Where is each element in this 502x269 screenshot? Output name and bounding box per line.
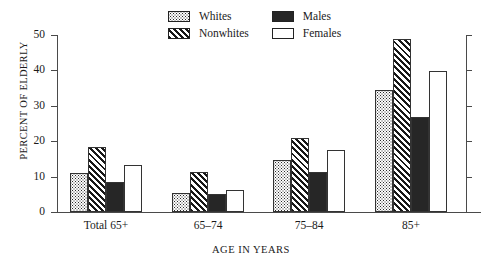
bar-nonwhites-2 bbox=[291, 138, 309, 212]
y-tick-mark bbox=[51, 177, 57, 178]
legend-label-males: Males bbox=[303, 11, 355, 23]
bar-nonwhites-1 bbox=[190, 172, 208, 212]
bar-females-3 bbox=[429, 71, 447, 212]
bar-group bbox=[375, 35, 447, 212]
bar-group bbox=[273, 35, 345, 212]
x-category-label: 85+ bbox=[351, 220, 471, 232]
bar-whites-2 bbox=[273, 160, 291, 212]
x-axis-line bbox=[57, 212, 481, 213]
legend-swatch-males bbox=[272, 11, 294, 22]
y-tick-mark bbox=[51, 212, 57, 213]
bar-whites-3 bbox=[375, 90, 393, 212]
bar-whites-1 bbox=[172, 193, 190, 212]
bar-males-3 bbox=[411, 117, 429, 212]
y-tick-mark bbox=[51, 106, 57, 107]
bar-females-0 bbox=[124, 165, 142, 212]
y-tick-mark bbox=[51, 35, 57, 36]
y-axis-line bbox=[57, 35, 58, 213]
bar-females-1 bbox=[226, 190, 244, 212]
y-tick-mark-right bbox=[466, 177, 472, 178]
y-tick-mark-right bbox=[466, 106, 472, 107]
bar-females-2 bbox=[327, 150, 345, 212]
right-axis-line bbox=[466, 35, 467, 213]
bar-males-0 bbox=[106, 182, 124, 212]
bar-chart-figure: Whites Males Nonwhites Females 010203040… bbox=[0, 0, 502, 269]
y-tick-mark bbox=[51, 70, 57, 71]
y-tick-mark bbox=[51, 141, 57, 142]
bar-males-1 bbox=[208, 194, 226, 212]
y-tick-mark-right bbox=[466, 70, 472, 71]
x-axis-label: AGE IN YEARS bbox=[0, 244, 502, 255]
y-tick-label: 10 bbox=[5, 171, 45, 183]
y-tick-mark-right bbox=[466, 35, 472, 36]
bar-group bbox=[172, 35, 244, 212]
legend-swatch-whites bbox=[168, 11, 190, 22]
bar-group bbox=[70, 35, 142, 212]
bar-whites-0 bbox=[70, 173, 88, 212]
y-tick-label: 0 bbox=[5, 206, 45, 218]
legend-label-whites: Whites bbox=[199, 11, 263, 23]
bar-males-2 bbox=[309, 172, 327, 212]
bar-nonwhites-3 bbox=[393, 39, 411, 212]
bar-nonwhites-0 bbox=[88, 147, 106, 212]
y-tick-mark-right bbox=[466, 141, 472, 142]
y-axis-label: PERCENT OF ELDERLY bbox=[18, 31, 29, 171]
